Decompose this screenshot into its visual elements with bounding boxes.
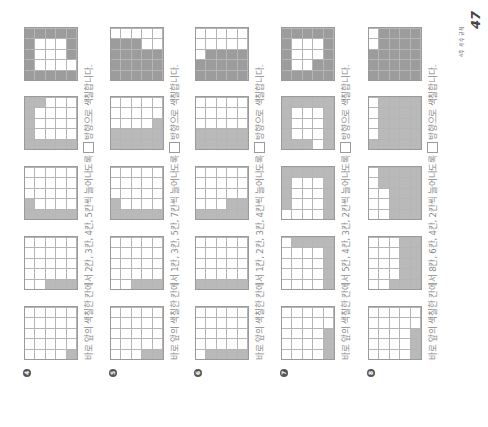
shaded-cell (67, 28, 77, 38)
empty-cell (56, 38, 66, 48)
shaded-cell (411, 188, 421, 198)
empty-cell (217, 97, 227, 107)
shaded-cell (390, 70, 400, 80)
shaded-cell (400, 49, 410, 59)
empty-cell (292, 59, 302, 69)
empty-cell (121, 317, 131, 327)
shaded-cell (390, 97, 400, 107)
shaded-cell (400, 268, 410, 278)
empty-cell (35, 198, 45, 208)
shaded-cell (411, 258, 421, 268)
shaded-cell (56, 279, 66, 289)
empty-cell (25, 317, 35, 327)
empty-cell (121, 107, 131, 117)
empty-cell (121, 97, 131, 107)
shaded-cell (121, 38, 131, 48)
empty-cell (217, 237, 227, 247)
empty-cell (153, 328, 163, 338)
shaded-cell (227, 128, 237, 138)
pattern-grid (281, 236, 335, 290)
empty-cell (196, 198, 206, 208)
problem-number-marker: 6 (194, 369, 202, 377)
empty-cell (303, 279, 313, 289)
shaded-cell (153, 49, 163, 59)
empty-cell (56, 307, 66, 317)
empty-cell (132, 28, 142, 38)
shaded-cell (153, 70, 163, 80)
pattern-grid (368, 306, 422, 360)
shaded-cell (390, 59, 400, 69)
empty-cell (282, 209, 292, 219)
empty-cell (292, 38, 302, 48)
shaded-cell (56, 70, 66, 80)
shaded-cell (121, 139, 131, 149)
shaded-cell (153, 128, 163, 138)
shaded-cell (238, 279, 248, 289)
empty-cell (121, 279, 131, 289)
empty-cell (142, 118, 152, 128)
shaded-cell (282, 107, 292, 117)
empty-cell (56, 338, 66, 348)
shaded-cell (238, 59, 248, 69)
shaded-cell (227, 139, 237, 149)
empty-cell (303, 188, 313, 198)
empty-cell (196, 38, 206, 48)
instruction-text-before: 바로 앞의 색칠한 칸에서 8칸, 6칸, 4칸, 2칸씩 늘어나도록 (428, 155, 438, 360)
empty-cell (292, 209, 302, 219)
shaded-cell (303, 70, 313, 80)
shaded-cell (132, 38, 142, 48)
empty-cell (142, 307, 152, 317)
empty-cell (142, 247, 152, 257)
empty-cell (303, 107, 313, 117)
shaded-cell (400, 209, 410, 219)
shaded-cell (324, 188, 334, 198)
empty-cell (196, 317, 206, 327)
empty-cell (282, 328, 292, 338)
shaded-cell (400, 247, 410, 257)
shaded-cell (411, 268, 421, 278)
empty-cell (132, 338, 142, 348)
shaded-cell (390, 279, 400, 289)
empty-cell (132, 198, 142, 208)
empty-cell (196, 268, 206, 278)
shaded-cell (292, 28, 302, 38)
shaded-cell (324, 268, 334, 278)
empty-cell (369, 209, 379, 219)
shaded-cell (313, 167, 323, 177)
shaded-cell (400, 188, 410, 198)
shaded-cell (67, 349, 77, 359)
empty-cell (379, 317, 389, 327)
empty-cell (153, 237, 163, 247)
empty-cell (217, 268, 227, 278)
empty-cell (282, 258, 292, 268)
empty-cell (292, 49, 302, 59)
empty-cell (400, 328, 410, 338)
shaded-cell (196, 128, 206, 138)
shaded-cell (400, 107, 410, 117)
empty-cell (227, 97, 237, 107)
shaded-cell (324, 328, 334, 338)
shaded-cell (217, 49, 227, 59)
empty-cell (303, 349, 313, 359)
empty-cell (121, 328, 131, 338)
shaded-cell (324, 237, 334, 247)
empty-cell (400, 317, 410, 327)
empty-cell (390, 258, 400, 268)
empty-cell (35, 59, 45, 69)
empty-cell (153, 177, 163, 187)
pattern-grid (24, 96, 78, 150)
shaded-cell (282, 28, 292, 38)
empty-cell (206, 177, 216, 187)
shaded-cell (324, 247, 334, 257)
empty-cell (369, 188, 379, 198)
empty-cell (132, 349, 142, 359)
pattern-grid (24, 27, 78, 81)
empty-cell (390, 237, 400, 247)
empty-cell (35, 107, 45, 117)
empty-cell (390, 349, 400, 359)
empty-cell (153, 107, 163, 117)
empty-cell (369, 97, 379, 107)
shaded-cell (379, 177, 389, 187)
empty-cell (56, 177, 66, 187)
pattern-grid (368, 27, 422, 81)
